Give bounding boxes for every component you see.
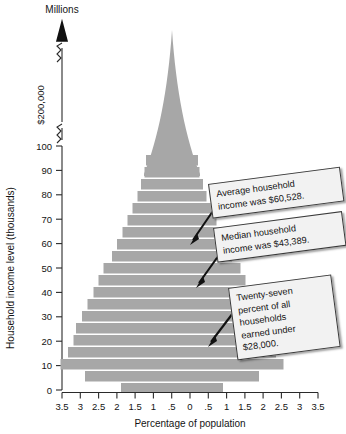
- callout-percent-under-28000: Twenty-seven percent of all households e…: [228, 274, 341, 359]
- y-axis-title: Household income level (thousands): [5, 187, 16, 349]
- y-tick-label-80: 80: [41, 189, 52, 200]
- axis-break-value-label: $200,000: [35, 85, 46, 125]
- axis-break-upper-icon: [57, 43, 62, 62]
- bar-60-65: [117, 239, 227, 250]
- x-tick-label-11: 2: [260, 401, 265, 412]
- pyramid-spire: [144, 30, 200, 176]
- y-tick-group: [56, 146, 62, 390]
- x-tick-label-8: .5: [204, 401, 212, 412]
- bar-95-100: [146, 155, 198, 166]
- y-tick-label-30: 30: [41, 311, 52, 322]
- bar-90-95: [145, 167, 200, 178]
- x-tick-label-1: 3: [78, 401, 83, 412]
- bar-45-50: [99, 275, 246, 286]
- x-axis-title: Percentage of population: [134, 418, 245, 429]
- x-tick-label-10: 1.5: [238, 401, 251, 412]
- x-tick-label-13: 3: [297, 401, 302, 412]
- bar-5-10: [85, 371, 259, 382]
- x-tick-label-3: 2: [114, 401, 119, 412]
- y-tick-label-100: 100: [36, 141, 52, 152]
- y-tick-label-60: 60: [41, 238, 52, 249]
- x-tick-label-0: 3.5: [55, 401, 68, 412]
- y-tick-label-70: 70: [41, 214, 52, 225]
- bar-55-60: [112, 251, 232, 262]
- x-tick-label-5: 1: [151, 401, 156, 412]
- y-tick-label-50: 50: [41, 263, 52, 274]
- bar-50-55: [104, 263, 241, 274]
- x-tick-label-12: 2.5: [275, 401, 288, 412]
- bar-65-70: [123, 227, 222, 238]
- axis-break-lower-icon: [57, 124, 62, 143]
- bar-75-80: [133, 203, 212, 214]
- y-tick-label-90: 90: [41, 165, 52, 176]
- bar-40-45: [94, 287, 251, 298]
- x-tick-group: [62, 393, 318, 399]
- bar-0-5: [121, 383, 223, 392]
- y-tick-label-0: 0: [47, 385, 52, 396]
- x-tick-label-6: .5: [168, 401, 176, 412]
- y-tick-label-10: 10: [41, 360, 52, 371]
- y-tick-label-20: 20: [41, 336, 52, 347]
- bar-85-90: [141, 179, 203, 190]
- x-tick-label-7: 0: [187, 401, 192, 412]
- bar-80-85: [138, 191, 207, 202]
- y-axis-arrowhead-icon: [57, 22, 67, 41]
- x-tick-label-4: 1.5: [128, 401, 141, 412]
- millions-note-label: Millions: [45, 4, 78, 15]
- x-tick-label-9: 1: [224, 401, 229, 412]
- y-tick-label-40: 40: [41, 287, 52, 298]
- x-tick-label-2: 2.5: [92, 401, 105, 412]
- bar-10-15: [61, 359, 284, 370]
- x-tick-label-14: 3.5: [311, 401, 324, 412]
